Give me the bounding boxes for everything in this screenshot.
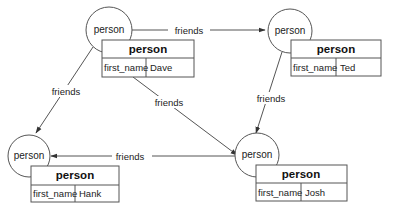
node-ted[interactable]: person person first_name Ted [268, 9, 381, 76]
edge-label: friends [155, 97, 184, 108]
node-josh[interactable]: person person first_name Josh [235, 133, 347, 201]
property-table: person first_name Ted [291, 40, 381, 76]
table-title: person [282, 168, 320, 180]
edge-label: friends [175, 25, 204, 36]
node-hank[interactable]: person person first_name Hank [8, 135, 119, 202]
property-value: Hank [79, 188, 101, 199]
node-label: person [242, 149, 273, 160]
edge-label: friends [116, 151, 145, 162]
edge-label: friends [257, 93, 286, 104]
graph-diagram: friends friends friends friends friends … [0, 0, 393, 213]
table-title: person [129, 43, 167, 55]
table-title: person [317, 43, 355, 55]
edge-label: friends [52, 86, 81, 97]
property-table: person first_name Hank [31, 166, 119, 202]
edge-dave-ted: friends [132, 24, 265, 36]
property-table: person first_name Josh [256, 165, 347, 201]
property-value: Dave [150, 62, 172, 73]
edge-dave-josh: friends [133, 77, 237, 155]
edge-dave-hank: friends [36, 47, 93, 133]
property-table: person first_name Dave [102, 40, 194, 77]
edge-ted-josh: friends [254, 52, 294, 133]
property-value: Josh [305, 187, 325, 198]
property-value: Ted [340, 62, 355, 73]
table-title: person [56, 169, 94, 181]
property-key: first_name [258, 187, 302, 198]
node-dave[interactable]: person person first_name Dave [86, 7, 194, 77]
property-key: first_name [104, 62, 148, 73]
edge-josh-hank: friends [51, 150, 235, 162]
property-key: first_name [293, 62, 337, 73]
property-key: first_name [33, 188, 77, 199]
node-label: person [275, 25, 306, 36]
node-label: person [94, 24, 125, 35]
node-label: person [14, 150, 45, 161]
